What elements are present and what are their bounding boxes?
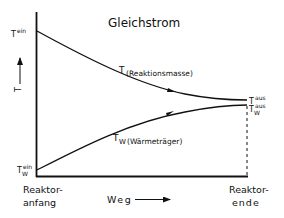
svg-text:ein: ein <box>17 27 26 34</box>
x-start-label-line2: anfang <box>23 197 56 208</box>
svg-text:T: T <box>10 30 16 39</box>
arrow-reaktionsmasse-icon <box>167 88 176 92</box>
svg-text:W: W <box>22 170 28 177</box>
label-tw-ein: T ein W <box>16 163 32 177</box>
y-axis-label-group: T <box>14 58 23 93</box>
svg-text:W: W <box>119 138 126 146</box>
x-end-label-line2: ende <box>232 197 260 208</box>
label-reaktionsmasse: T (Reaktionsmasse) <box>118 65 193 78</box>
label-waermetraeger: T W (Wärmeträger) <box>112 133 182 146</box>
svg-text:T: T <box>118 65 125 75</box>
label-tw-aus: T aus W <box>248 102 266 116</box>
label-t-ein: T ein <box>10 27 26 39</box>
x-end-label-line1: Reaktor- <box>229 184 269 195</box>
cocurrent-temperature-diagram: Gleichstrom T T ein T ein W T aus T aus … <box>0 0 284 218</box>
svg-text:(Reaktionsmasse): (Reaktionsmasse) <box>126 69 193 78</box>
curve-reaktionsmasse <box>37 31 247 100</box>
svg-text:ein: ein <box>23 163 32 170</box>
svg-text:aus: aus <box>255 94 266 101</box>
svg-text:T: T <box>112 133 119 143</box>
svg-text:(Wärmeträger): (Wärmeträger) <box>127 137 182 146</box>
svg-text:W: W <box>254 109 260 116</box>
x-start-label-line1: Reaktor- <box>23 184 63 195</box>
y-axis-label: T <box>14 87 23 93</box>
svg-text:aus: aus <box>255 102 266 109</box>
diagram-title: Gleichstrom <box>108 16 180 30</box>
x-axis-label: Weg <box>107 194 132 205</box>
